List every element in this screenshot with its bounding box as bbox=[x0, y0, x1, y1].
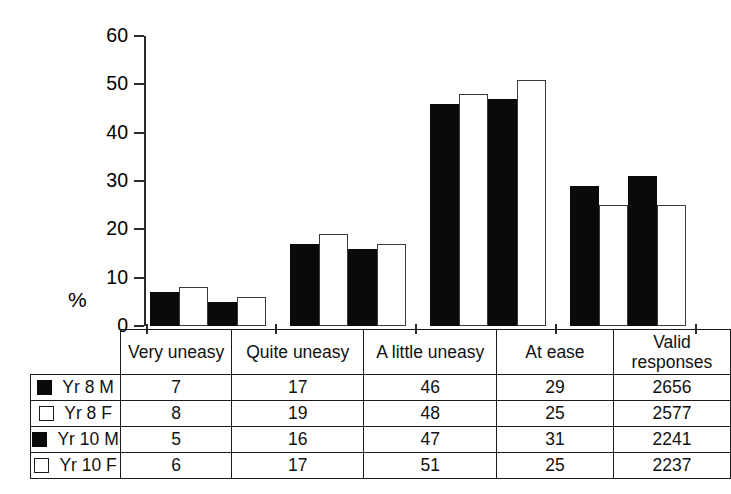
y-axis-tick bbox=[134, 228, 144, 230]
bars-layer bbox=[146, 36, 706, 326]
bar bbox=[430, 104, 459, 326]
legend-column-header bbox=[31, 330, 121, 375]
bar bbox=[488, 99, 517, 326]
table-cell: 2656 bbox=[613, 375, 730, 401]
table-cell: 29 bbox=[496, 375, 613, 401]
plot-area: 6050403020100 % bbox=[0, 0, 731, 330]
table-cell: 17 bbox=[232, 375, 364, 401]
table-cell: 17 bbox=[232, 453, 364, 479]
table-cell: 48 bbox=[364, 401, 496, 427]
table-cell: 25 bbox=[496, 401, 613, 427]
y-axis-tick bbox=[134, 277, 144, 279]
bar bbox=[179, 287, 208, 326]
bar bbox=[150, 292, 179, 326]
bar bbox=[517, 80, 546, 327]
table-cell: 25 bbox=[496, 453, 613, 479]
bar bbox=[319, 234, 348, 326]
legend-cell: Yr 8 M bbox=[31, 375, 121, 401]
bar-chart-figure: 6050403020100 % Very uneasyQuite uneasyA… bbox=[0, 0, 731, 494]
y-axis-tick-label: 20 bbox=[84, 219, 128, 239]
bar bbox=[599, 205, 628, 326]
table-column-header: At ease bbox=[496, 330, 613, 375]
filled-square-icon bbox=[37, 380, 52, 395]
y-axis-tick-label: 10 bbox=[84, 268, 128, 288]
table-cell: 8 bbox=[121, 401, 232, 427]
legend-label: Yr 10 M bbox=[57, 429, 118, 450]
table-header-row: Very uneasyQuite uneasyA little uneasyAt… bbox=[31, 330, 731, 375]
y-axis-tick bbox=[134, 83, 144, 85]
outlined-square-icon bbox=[34, 458, 49, 473]
table-cell: 7 bbox=[121, 375, 232, 401]
table-row: Yr 8 F81948252577 bbox=[31, 401, 731, 427]
table-cell: 5 bbox=[121, 427, 232, 453]
legend-data-table: Very uneasyQuite uneasyA little uneasyAt… bbox=[30, 329, 731, 479]
legend-cell: Yr 10 F bbox=[31, 453, 121, 479]
table-cell: 31 bbox=[496, 427, 613, 453]
bar bbox=[570, 186, 599, 326]
y-axis-tick-label: 60 bbox=[84, 26, 128, 46]
y-axis-tick-label: 40 bbox=[84, 123, 128, 143]
bar bbox=[290, 244, 319, 326]
table-cell: 2237 bbox=[613, 453, 730, 479]
y-axis-tick bbox=[134, 325, 144, 327]
table-cell: 47 bbox=[364, 427, 496, 453]
outlined-square-icon bbox=[39, 406, 54, 421]
bar bbox=[208, 302, 237, 326]
bar bbox=[628, 176, 657, 326]
table-column-header: Very uneasy bbox=[121, 330, 232, 375]
table-column-header: A little uneasy bbox=[364, 330, 496, 375]
bar bbox=[237, 297, 266, 326]
bar bbox=[348, 249, 377, 326]
y-axis-tick bbox=[134, 180, 144, 182]
table-cell: 2241 bbox=[613, 427, 730, 453]
filled-square-icon bbox=[32, 432, 47, 447]
table-cell: 51 bbox=[364, 453, 496, 479]
bar bbox=[657, 205, 686, 326]
bar bbox=[377, 244, 406, 326]
legend-data-table-wrap: Very uneasyQuite uneasyA little uneasyAt… bbox=[30, 329, 731, 479]
table-cell: 6 bbox=[121, 453, 232, 479]
table-cell: 46 bbox=[364, 375, 496, 401]
table-cell: 19 bbox=[232, 401, 364, 427]
table-column-header: Quite uneasy bbox=[232, 330, 364, 375]
table-cell: 2577 bbox=[613, 401, 730, 427]
bar bbox=[459, 94, 488, 326]
table-row: Yr 10 F61751252237 bbox=[31, 453, 731, 479]
table-row: Yr 10 M51647312241 bbox=[31, 427, 731, 453]
legend-label: Yr 8 M bbox=[62, 377, 114, 398]
table-row: Yr 8 M71746292656 bbox=[31, 375, 731, 401]
legend-cell: Yr 8 F bbox=[31, 401, 121, 427]
legend-label: Yr 8 F bbox=[64, 403, 112, 424]
table-cell: 16 bbox=[232, 427, 364, 453]
legend-cell: Yr 10 M bbox=[31, 427, 121, 453]
y-axis-tick-label: 50 bbox=[84, 74, 128, 94]
y-axis-unit-label: % bbox=[68, 289, 87, 310]
y-axis-tick bbox=[134, 35, 144, 37]
y-axis-tick-label: 30 bbox=[84, 171, 128, 191]
y-axis-tick bbox=[134, 132, 144, 134]
table-column-header: Valid responses bbox=[613, 330, 730, 375]
legend-label: Yr 10 F bbox=[59, 455, 116, 476]
